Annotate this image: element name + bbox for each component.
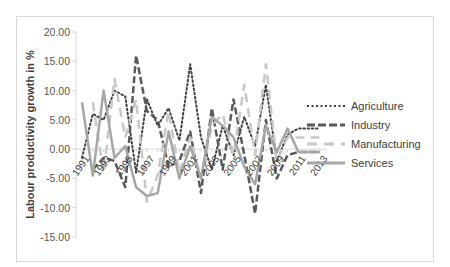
y-tick-label: 15.00 <box>44 55 70 67</box>
y-tick-label: -15.00 <box>40 231 70 243</box>
y-tick-label: 10.00 <box>44 85 70 97</box>
legend: Agriculture Industry Manufacturing Servi… <box>305 96 421 172</box>
x-tick-label: 2003 <box>200 153 222 178</box>
y-tick-label: -5.00 <box>46 172 70 184</box>
legend-item-manufacturing: Manufacturing <box>305 134 421 153</box>
legend-label: Agriculture <box>351 100 404 112</box>
long-dashed-line-icon <box>305 139 347 149</box>
legend-item-services: Services <box>305 153 421 172</box>
y-tick-label: 20.00 <box>44 26 70 38</box>
legend-label: Services <box>351 157 393 169</box>
series-line-agriculture <box>82 64 320 172</box>
solid-line-icon <box>305 158 347 168</box>
dotted-line-icon <box>305 101 347 111</box>
y-tick-label: 0.00 <box>50 143 71 155</box>
dashed-line-icon <box>305 120 347 130</box>
legend-label: Industry <box>351 119 390 131</box>
y-tick-label: -10.00 <box>40 202 70 214</box>
legend-label: Manufacturing <box>351 138 421 150</box>
y-tick-label: 5.00 <box>50 114 71 126</box>
legend-item-agriculture: Agriculture <box>305 96 421 115</box>
legend-item-industry: Industry <box>305 115 421 134</box>
x-tick-label: 1991 <box>70 153 92 178</box>
y-axis-title: Labour productivity growth in % <box>24 50 36 219</box>
